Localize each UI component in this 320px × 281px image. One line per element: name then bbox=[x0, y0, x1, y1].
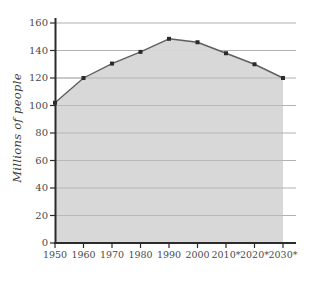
x-tick-label: 2000 bbox=[185, 249, 209, 260]
x-tick-label: 2030* bbox=[269, 249, 298, 260]
x-tick-label: 2010* bbox=[212, 249, 241, 260]
x-tick-label: 1950 bbox=[43, 249, 67, 260]
x-tick-label: 1980 bbox=[128, 249, 152, 260]
x-tick-label: 1960 bbox=[71, 249, 95, 260]
chart-container: Millions of people 0 20 40 60 80 100 120… bbox=[0, 0, 320, 281]
data-point bbox=[253, 62, 257, 66]
data-point bbox=[281, 76, 285, 80]
area-fill bbox=[55, 39, 283, 243]
x-tick-label: 1970 bbox=[100, 249, 124, 260]
data-point bbox=[167, 37, 171, 41]
data-point bbox=[110, 62, 114, 66]
data-point bbox=[82, 76, 86, 80]
y-axis-ticks bbox=[50, 23, 55, 243]
x-tick-label: 1990 bbox=[157, 249, 181, 260]
data-point bbox=[196, 40, 200, 44]
data-point bbox=[224, 51, 228, 55]
x-tick-label: 2020* bbox=[240, 249, 269, 260]
chart-plot-area bbox=[0, 0, 320, 281]
data-point bbox=[139, 50, 143, 54]
